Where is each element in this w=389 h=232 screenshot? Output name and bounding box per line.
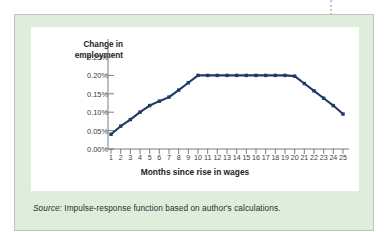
data-point-marker [109, 133, 112, 136]
x-axis-title: Months since rise in wages [31, 167, 359, 177]
data-point-marker [196, 74, 199, 77]
data-point-marker [283, 74, 286, 77]
source-note: Source: Impulse-response function based … [33, 203, 363, 213]
data-point-marker [293, 74, 296, 77]
data-point-marker [341, 112, 344, 115]
data-point-marker [138, 111, 141, 114]
data-point-marker [225, 74, 228, 77]
source-text: Impulse-response function based on autho… [62, 203, 281, 213]
data-series-markers [109, 74, 344, 136]
chart-plate: Change in employment 0.00%0.05%0.10%0.15… [31, 27, 359, 191]
data-point-marker [177, 88, 180, 91]
data-series-line [111, 75, 343, 134]
data-point-marker [216, 74, 219, 77]
axis-lines [108, 39, 349, 149]
data-point-marker [119, 124, 122, 127]
plot-area: Change in employment 0.00%0.05%0.10%0.15… [31, 27, 359, 191]
figure-root: Change in employment 0.00%0.05%0.10%0.15… [0, 0, 389, 232]
data-point-marker [167, 95, 170, 98]
data-point-marker [245, 74, 248, 77]
data-point-marker [332, 104, 335, 107]
data-point-marker [158, 99, 161, 102]
tick-marks [108, 57, 343, 154]
dotted-guide-line [330, 0, 332, 15]
source-label: Source: [33, 203, 62, 213]
data-point-marker [274, 74, 277, 77]
data-point-marker [206, 74, 209, 77]
data-point-marker [303, 82, 306, 85]
data-point-marker [322, 97, 325, 100]
figure-panel: Change in employment 0.00%0.05%0.10%0.15… [14, 14, 374, 231]
data-point-marker [148, 104, 151, 107]
data-point-marker [129, 118, 132, 121]
data-point-marker [312, 89, 315, 92]
data-point-marker [254, 74, 257, 77]
data-point-marker [235, 74, 238, 77]
data-point-marker [264, 74, 267, 77]
data-point-marker [187, 81, 190, 84]
